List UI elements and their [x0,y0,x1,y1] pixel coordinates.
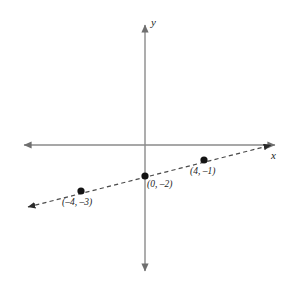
y-axis-label: y [151,17,156,28]
data-point-label: (0, –2) [147,180,172,190]
data-point-marker [200,156,207,163]
data-point-label: (–4, –3) [62,198,92,208]
data-point-label: (4, –1) [190,167,215,177]
data-point-marker [77,187,84,194]
graph-canvas [0,0,289,289]
x-axis-label: x [271,150,276,161]
coordinate-plane-figure: (–4, –3) (0, –2) (4, –1) x y [0,0,289,289]
